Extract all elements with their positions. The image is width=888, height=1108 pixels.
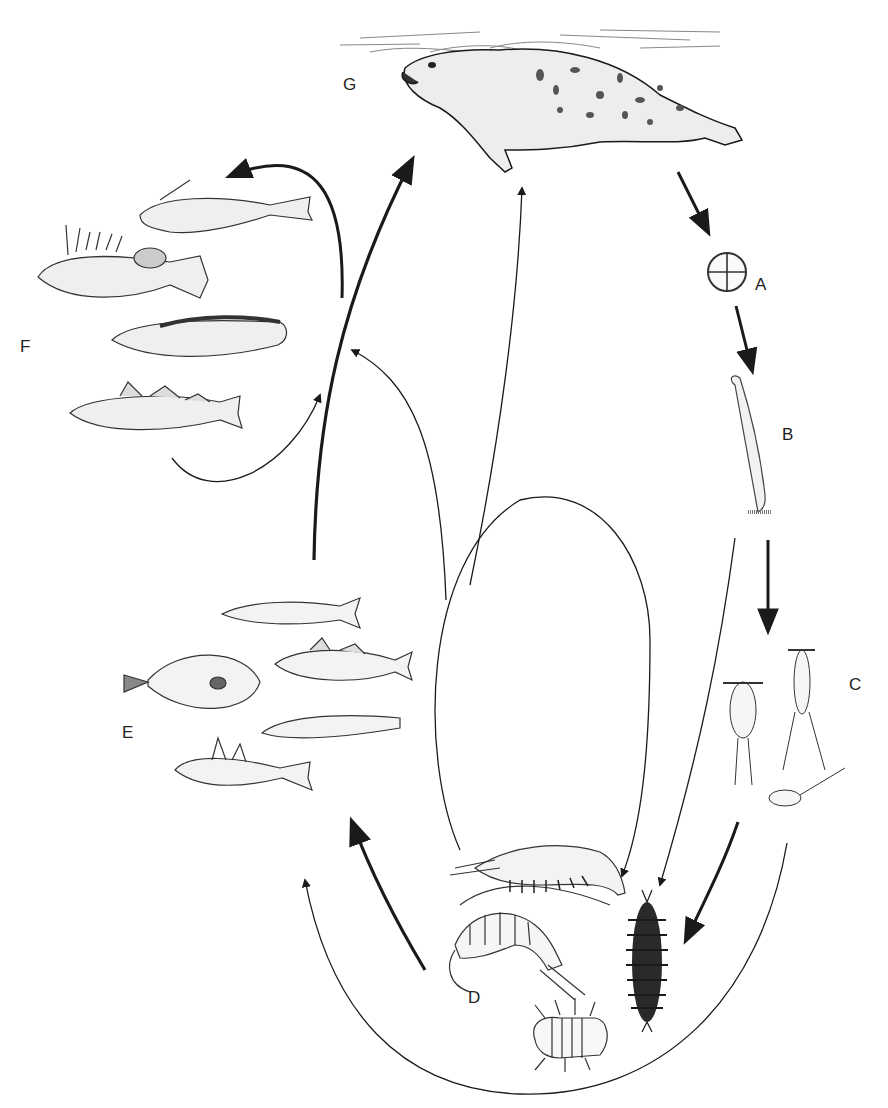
label-f: F xyxy=(20,337,30,356)
arrow-d-to-e xyxy=(352,822,425,970)
amphipod-illustration xyxy=(450,912,585,1000)
food-web-diagram: G A B C xyxy=(0,0,888,1108)
diagram-canvas: G A B C xyxy=(0,0,888,1108)
small-fishes-illustration xyxy=(124,598,412,790)
arrow-g-to-a xyxy=(678,172,708,232)
isopod-illustration xyxy=(534,998,607,1072)
arrow-d-to-f xyxy=(352,350,446,600)
arrow-d-loop xyxy=(435,497,650,876)
arrow-e-to-g xyxy=(314,160,412,560)
egg-illustration xyxy=(708,253,746,291)
arrow-e-to-f xyxy=(230,165,342,298)
label-b: B xyxy=(782,425,793,444)
label-c: C xyxy=(849,675,861,694)
label-g: G xyxy=(343,75,356,94)
larva-illustration xyxy=(731,376,772,512)
arrow-a-to-b xyxy=(736,306,752,370)
arrow-b-to-d xyxy=(660,538,735,885)
polychaete-worm-illustration xyxy=(626,890,668,1032)
copepods-illustration xyxy=(723,650,845,806)
arrow-d-to-g xyxy=(470,188,522,585)
label-d: D xyxy=(468,988,480,1007)
label-a: A xyxy=(755,275,767,294)
label-e: E xyxy=(122,723,133,742)
arrow-c-to-d xyxy=(686,822,738,940)
mysid-illustration xyxy=(450,846,625,905)
seal-illustration xyxy=(402,49,742,172)
larger-fishes-illustration xyxy=(38,180,312,430)
